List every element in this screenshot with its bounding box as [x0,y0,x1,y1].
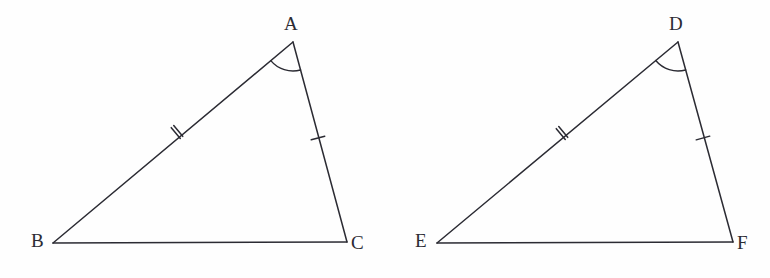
triangle-def [437,42,733,243]
side-ab [53,42,293,243]
side-de-tick-2 [556,129,565,140]
vertex-label-d: D [669,14,683,33]
triangles-canvas [0,0,770,278]
side-df [678,42,733,242]
angle-a-arc [271,61,301,71]
angle-d-arc [656,61,686,71]
side-ac [293,42,347,242]
side-df-tick-1 [696,136,709,140]
vertex-label-e: E [415,231,427,250]
vertex-label-f: F [737,233,748,252]
geometry-figure: ABCDEF [0,0,770,278]
vertex-label-c: C [351,233,364,252]
side-bc [53,242,347,243]
vertex-label-a: A [284,14,298,33]
side-ab-tick-1 [174,126,183,137]
triangle-abc [53,42,347,243]
side-de [437,42,678,243]
side-de-tick-1 [559,127,568,138]
side-ef [437,242,733,243]
side-ab-tick-2 [171,128,180,139]
vertex-label-b: B [31,231,44,250]
